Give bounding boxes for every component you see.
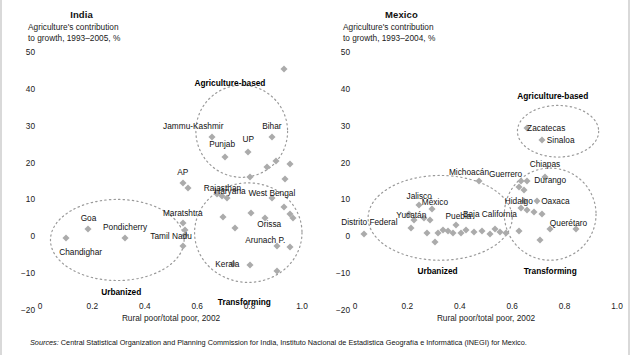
x-axis-label-mexico: Rural poor/total poor, 2002 — [386, 313, 586, 323]
y-axis-tick: 0 — [13, 231, 35, 241]
data-point-label: Querétaro — [550, 218, 587, 228]
x-axis-tick: 0.4 — [448, 301, 472, 311]
y-axis-tick: 10 — [328, 194, 350, 204]
x-axis-tick: 0 — [28, 301, 52, 311]
y-axis-tick: −10 — [328, 268, 350, 278]
x-axis-tick: 0.6 — [500, 301, 524, 311]
data-point-label: Punjab — [209, 139, 235, 149]
data-point-label: México — [422, 197, 448, 207]
x-axis-tick: 0 — [343, 301, 367, 311]
x-axis-tick: 0.2 — [80, 301, 104, 311]
y-axis-tick: −10 — [13, 268, 35, 278]
data-point-label: Kerala — [215, 259, 239, 269]
data-point-label: West Bengal — [248, 188, 295, 198]
cluster-label: Transforming — [524, 266, 577, 276]
y-axis-tick: 50 — [328, 47, 350, 57]
y-axis-tick: 40 — [328, 84, 350, 94]
data-point-label: Maratshtra — [163, 208, 203, 218]
data-point-label: Baja California — [463, 209, 517, 219]
plot-area-india: Agriculture-basedUrbanizedTransformingJa… — [2, 0, 317, 330]
data-point-label: Pondicherry — [103, 222, 147, 232]
data-point-label: Jammu-Kashmir — [163, 121, 223, 131]
cluster-label: Urbanized — [417, 266, 457, 276]
y-axis-tick: 30 — [328, 121, 350, 131]
data-point-label: Goa — [81, 213, 97, 223]
cluster-ellipses-mexico — [317, 0, 630, 330]
cluster-ellipse — [196, 85, 288, 177]
data-point-label: AP — [177, 167, 188, 177]
data-point-label: Durango — [534, 175, 566, 185]
x-axis-tick: 0.8 — [238, 301, 262, 311]
cluster-label: Agriculture-based — [517, 91, 588, 101]
x-axis-tick: 0.8 — [553, 301, 577, 311]
x-axis-tick: 1.0 — [605, 301, 629, 311]
cluster-label: Urbanized — [101, 287, 141, 297]
data-point-label: Hidalgo — [505, 196, 533, 206]
data-point-label: Chiapas — [530, 159, 560, 169]
sources-note: Sources: Central Statistical Organizatio… — [30, 338, 527, 347]
y-axis-tick: 50 — [13, 47, 35, 57]
y-axis-tick: 0 — [328, 231, 350, 241]
data-point-label: Chandighar — [59, 247, 102, 257]
data-point-label: UP — [243, 134, 255, 144]
plot-area-mexico: Agriculture-basedUrbanizedTransformingZa… — [317, 0, 630, 330]
data-point-label: Arunach P. — [245, 235, 285, 245]
y-axis-tick: 10 — [13, 194, 35, 204]
data-point-label: Sinaloa — [547, 135, 575, 145]
x-axis-tick: 0.4 — [133, 301, 157, 311]
data-point-label: Yucatán — [396, 210, 426, 220]
y-axis-tick: 20 — [13, 158, 35, 168]
data-point-label: Guerrero — [489, 169, 522, 179]
data-point-label: Haryana — [214, 186, 245, 196]
x-axis-tick: 0.2 — [395, 301, 419, 311]
data-point-label: Distrito Federal — [341, 217, 397, 227]
panel-mexico: Mexico Agriculture's contribution to gro… — [317, 0, 630, 330]
data-point-label: Orissa — [257, 219, 281, 229]
y-axis-tick: 20 — [328, 158, 350, 168]
figure-frame: India Agriculture's contribution to grow… — [0, 0, 630, 355]
data-point-label: Michoacán — [449, 167, 489, 177]
panel-india: India Agriculture's contribution to grow… — [2, 0, 317, 330]
data-point-label: Oaxaca — [541, 196, 570, 206]
x-axis-tick: 0.6 — [185, 301, 209, 311]
y-axis-tick: 30 — [13, 121, 35, 131]
sources-body: Central Statistical Organization and Pla… — [59, 338, 527, 347]
data-point-label: Zacatecas — [527, 123, 565, 133]
y-axis-tick: 40 — [13, 84, 35, 94]
cluster-ellipses-india — [2, 0, 317, 330]
x-axis-tick: 1.0 — [290, 301, 314, 311]
cluster-label: Agriculture-based — [194, 78, 265, 88]
data-point-label: Tamil Nadu — [150, 231, 192, 241]
sources-prefix: Sources: — [30, 338, 59, 347]
data-point-label: Bihar — [262, 121, 281, 131]
x-axis-label-india: Rural poor/total poor, 2002 — [71, 313, 271, 323]
